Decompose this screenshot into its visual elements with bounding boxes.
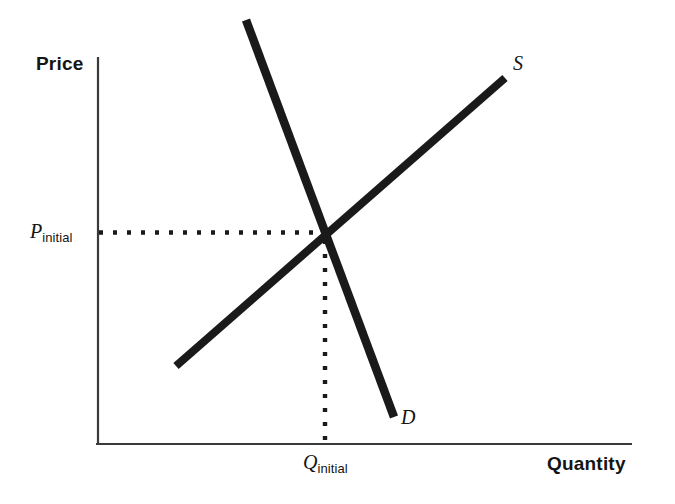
supply-demand-chart: Price Quantity Pinitial Qinitial S D bbox=[0, 0, 675, 504]
x-axis-title: Quantity bbox=[547, 453, 626, 475]
y-axis-title: Price bbox=[36, 53, 83, 75]
chart-plot-area bbox=[0, 0, 675, 504]
price-initial-symbol: P bbox=[30, 220, 42, 242]
quantity-initial-symbol: Q bbox=[303, 451, 317, 473]
price-initial-subscript: initial bbox=[42, 230, 72, 245]
supply-curve bbox=[176, 78, 505, 366]
quantity-initial-label: Qinitial bbox=[303, 451, 348, 474]
price-initial-label: Pinitial bbox=[30, 220, 73, 243]
quantity-initial-subscript: initial bbox=[317, 461, 347, 476]
demand-curve-label: D bbox=[401, 406, 415, 429]
demand-curve bbox=[246, 20, 394, 417]
supply-curve-label: S bbox=[513, 52, 523, 75]
